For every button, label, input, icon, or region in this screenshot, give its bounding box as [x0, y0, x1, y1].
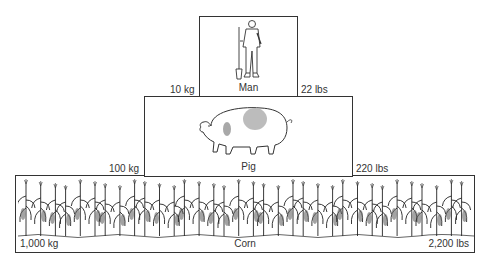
man-mass-metric: 10 kg: [170, 84, 194, 95]
man-icon: [230, 19, 270, 81]
corn-mass-imperial: 2,200 lbs: [428, 238, 469, 249]
corn-plants-icon: [18, 178, 474, 238]
pig-level: Pig: [144, 96, 353, 177]
man-mass-imperial: 22 lbs: [301, 84, 328, 95]
pig-mass-imperial: 220 lbs: [356, 163, 388, 174]
corn-label: Corn: [16, 238, 474, 249]
pig-mass-metric: 100 kg: [109, 163, 139, 174]
corn-level: 1,000 kg Corn 2,200 lbs: [15, 175, 475, 253]
man-level: Man: [199, 16, 298, 97]
man-label: Man: [200, 82, 297, 93]
pig-label: Pig: [145, 161, 352, 172]
pig-icon: [197, 102, 297, 158]
